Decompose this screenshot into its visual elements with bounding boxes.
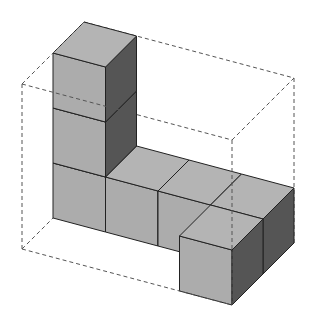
box-edge-right-top	[232, 78, 294, 140]
cube-structure	[53, 22, 294, 305]
cube-diagram	[0, 0, 313, 328]
